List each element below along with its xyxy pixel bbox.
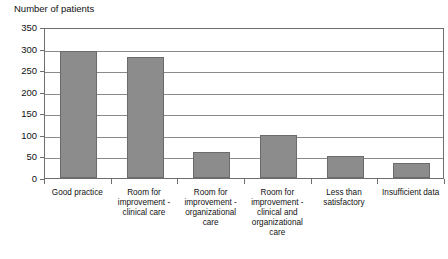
x-axis-tick-mark	[244, 179, 245, 184]
x-axis-tick-mark	[311, 179, 312, 184]
bar-chart: Number of patients 050100150200250300350…	[0, 0, 448, 259]
bar	[193, 152, 230, 178]
y-axis-title: Number of patients	[14, 3, 94, 15]
bar	[127, 57, 164, 178]
bar	[260, 135, 297, 178]
x-axis-category-label: Room for improvement - clinical care	[111, 188, 178, 218]
bars-group	[45, 29, 443, 178]
x-axis-category-label: Room for improvement - organizational ca…	[177, 188, 244, 228]
x-axis-category-label: Room for improvement - clinical and orga…	[244, 188, 311, 238]
y-axis-tick-label: 50	[3, 152, 37, 162]
y-axis-tick-label: 250	[3, 66, 37, 76]
y-axis-tick-label: 0	[3, 174, 37, 184]
x-axis-category-label: Less than satisfactory	[311, 188, 378, 208]
bar	[327, 156, 364, 178]
x-axis-category-label: Insufficient data	[377, 188, 444, 198]
y-axis-tick-label: 300	[3, 45, 37, 55]
bar	[393, 163, 430, 178]
x-axis-tick-mark	[444, 179, 445, 184]
x-axis-tick-mark	[111, 179, 112, 184]
x-axis-category-label: Good practice	[44, 188, 111, 198]
y-axis-tick-label: 200	[3, 88, 37, 98]
x-axis-tick-mark	[177, 179, 178, 184]
plot-area	[44, 28, 444, 179]
x-axis-tick-mark	[377, 179, 378, 184]
y-axis-tick-label: 350	[3, 23, 37, 33]
y-axis-tick-label: 150	[3, 109, 37, 119]
x-axis-tick-mark	[44, 179, 45, 184]
y-axis-tick-label: 100	[3, 131, 37, 141]
bar	[60, 51, 97, 178]
